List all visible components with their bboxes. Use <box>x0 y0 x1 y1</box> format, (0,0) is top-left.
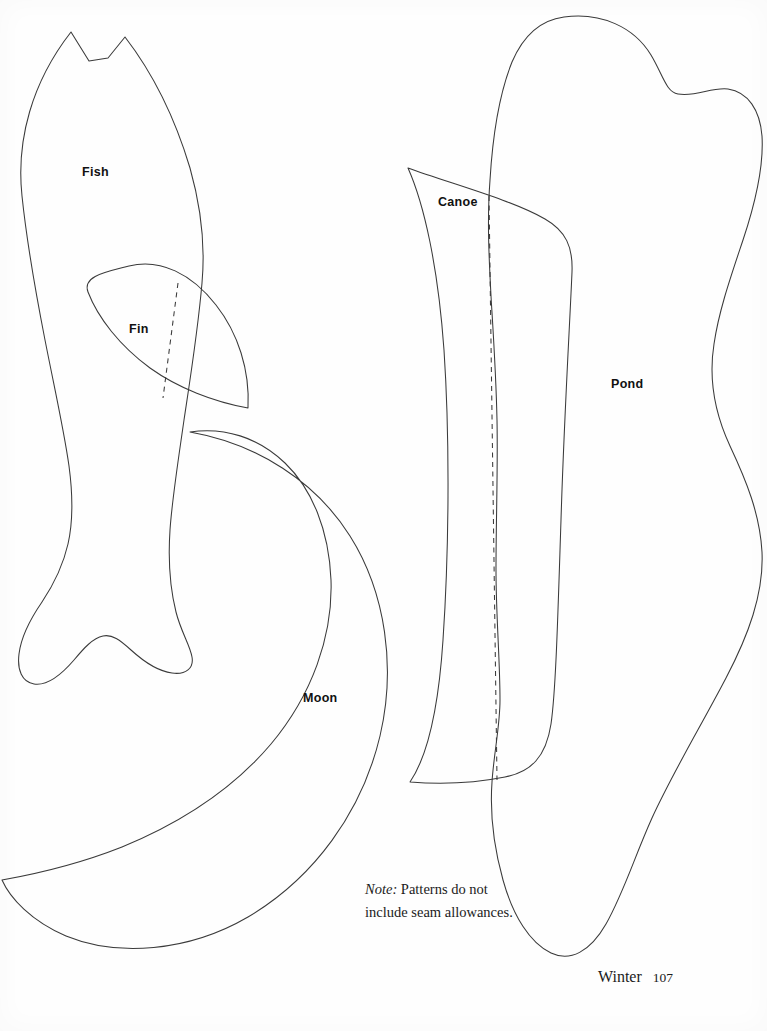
fin-outline <box>87 264 248 408</box>
canoe-label: Canoe <box>438 195 478 209</box>
moon-label: Moon <box>303 691 338 705</box>
pond-label: Pond <box>611 377 643 391</box>
pattern-note: Note: Patterns do not include seam allow… <box>365 878 585 925</box>
page-footer: Winter107 <box>598 968 673 986</box>
pond-outline <box>488 16 762 956</box>
moon-outline <box>2 431 387 949</box>
note-line-2: include seam allowances. <box>365 904 513 920</box>
pattern-page: Fish Fin Canoe Pond Moon Note: Patterns … <box>0 0 767 1031</box>
fish-label: Fish <box>82 165 109 179</box>
canoe-outline <box>408 168 572 783</box>
fish-outline <box>19 32 204 684</box>
fin-label: Fin <box>129 322 149 336</box>
note-line-1: Patterns do not <box>397 881 488 897</box>
footer-section-label: Winter <box>598 968 642 985</box>
pattern-illustration <box>0 0 767 1031</box>
note-lead: Note: <box>365 881 397 897</box>
footer-page-number: 107 <box>653 970 673 985</box>
